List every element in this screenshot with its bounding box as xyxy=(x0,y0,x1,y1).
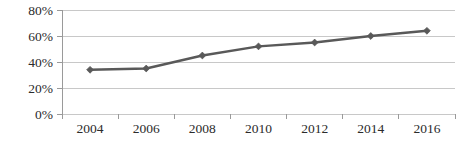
data-point-marker xyxy=(199,52,206,59)
y-tick-label: 0% xyxy=(35,107,53,122)
y-tick-labels: 0%20%40%60%80% xyxy=(28,3,53,122)
data-point-marker xyxy=(255,43,262,50)
y-tick-label: 60% xyxy=(28,29,53,44)
x-tick-label: 2010 xyxy=(245,121,272,136)
x-tick-label: 2006 xyxy=(133,121,160,136)
line-chart: 0%20%40%60%80%20042006200820102012201420… xyxy=(0,0,463,151)
data-point-marker xyxy=(87,66,94,73)
x-axis xyxy=(62,114,455,119)
y-tick-label: 40% xyxy=(28,55,53,70)
x-tick-label: 2016 xyxy=(413,121,440,136)
y-axis xyxy=(57,10,62,114)
x-tick-labels: 2004200620082010201220142016 xyxy=(77,121,441,136)
y-tick-label: 20% xyxy=(28,81,53,96)
x-tick-label: 2008 xyxy=(189,121,216,136)
chart-canvas: 0%20%40%60%80%20042006200820102012201420… xyxy=(0,0,463,151)
data-point-marker xyxy=(143,65,150,72)
data-point-marker xyxy=(311,39,318,46)
y-gridlines xyxy=(62,10,455,114)
y-tick-label: 80% xyxy=(28,3,53,18)
x-tick-label: 2012 xyxy=(301,121,328,136)
data-point-marker xyxy=(424,27,431,34)
data-point-marker xyxy=(367,33,374,40)
x-tick-label: 2004 xyxy=(77,121,104,136)
x-tick-label: 2014 xyxy=(357,121,384,136)
